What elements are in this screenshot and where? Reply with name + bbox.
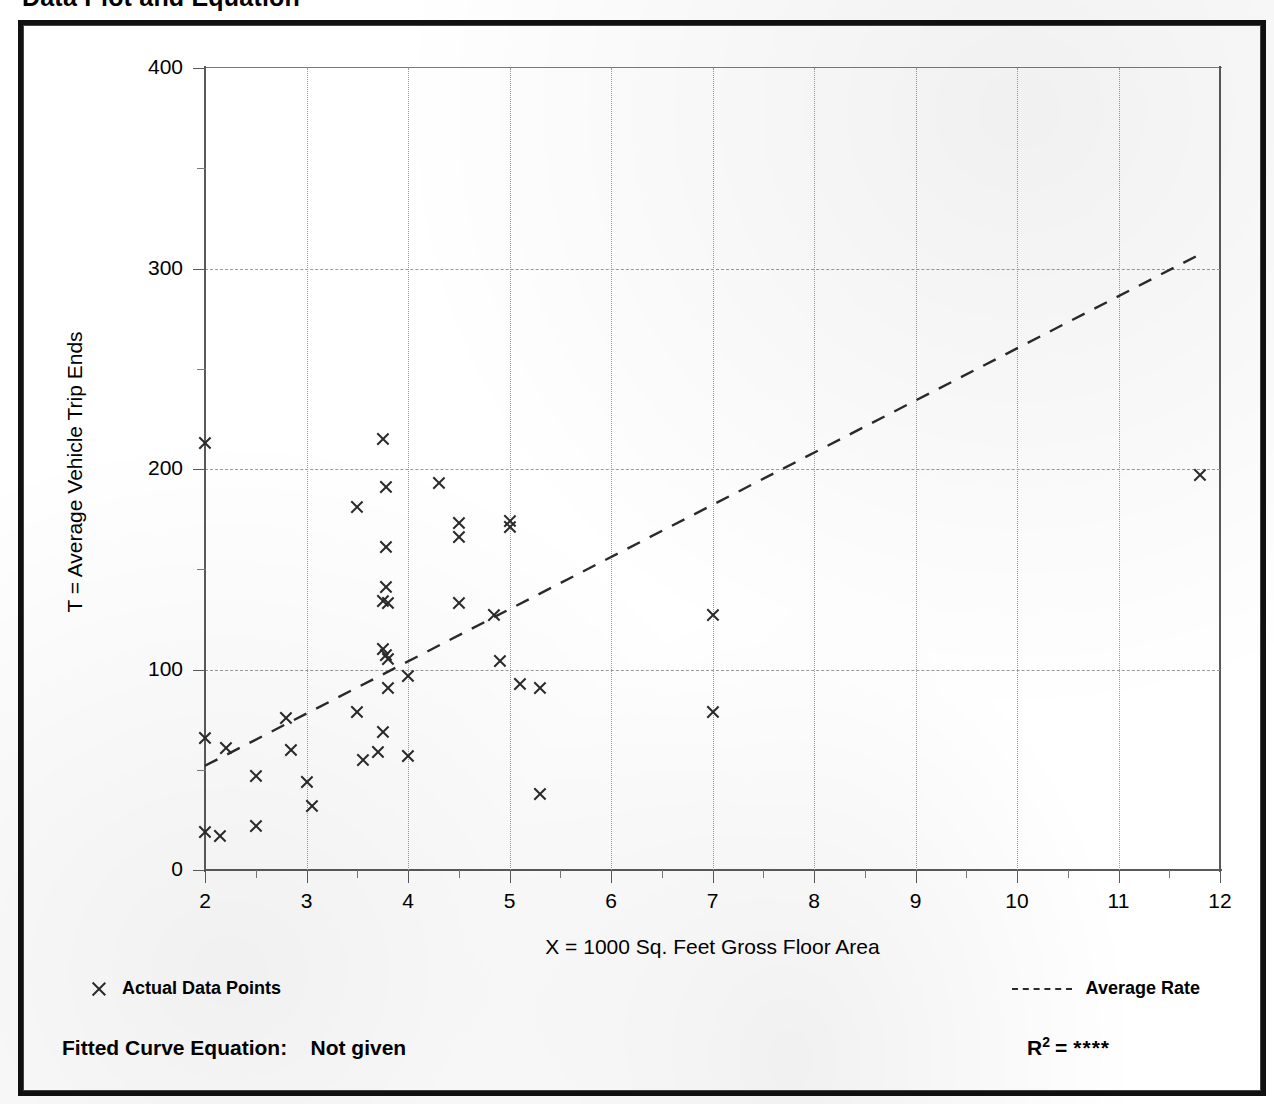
legend-item-average-rate: Average Rate — [1012, 978, 1200, 999]
data-point — [451, 595, 467, 611]
data-point — [512, 676, 528, 692]
fitted-curve-equation: Fitted Curve Equation: Not given — [62, 1036, 406, 1060]
data-point — [375, 724, 391, 740]
data-point — [430, 475, 446, 491]
equation-row: Fitted Curve Equation: Not given R2 = **… — [62, 1036, 1222, 1070]
scatter-chart: 23456789101112 0100200300400 X = 1000 Sq… — [0, 0, 1274, 1104]
data-point — [217, 740, 233, 756]
x-tick-label: 6 — [581, 889, 641, 913]
x-tick-minor — [459, 870, 460, 878]
r-squared-block: R2 = **** — [1027, 1036, 1110, 1060]
fitted-equation-value: Not given — [311, 1036, 407, 1059]
data-point — [705, 607, 721, 623]
data-point — [491, 653, 507, 669]
r-squared-equals: = — [1055, 1036, 1067, 1060]
x-tick — [510, 870, 511, 883]
x-tick — [205, 870, 206, 883]
data-point — [705, 704, 721, 720]
dashed-line-icon — [1012, 988, 1072, 990]
y-tick-label: 100 — [95, 657, 183, 681]
data-point — [1192, 467, 1208, 483]
y-tick-label: 300 — [95, 256, 183, 280]
x-tick-minor — [256, 870, 257, 878]
r-squared-label: R — [1027, 1036, 1042, 1060]
data-point — [370, 744, 386, 760]
x-tick-minor — [560, 870, 561, 878]
y-tick-label: 400 — [95, 55, 183, 79]
x-tick — [1119, 870, 1120, 883]
x-tick-label: 8 — [784, 889, 844, 913]
legend-label-average-rate: Average Rate — [1086, 978, 1200, 999]
data-point — [378, 539, 394, 555]
x-tick — [1017, 870, 1018, 883]
r-squared-exponent: 2 — [1042, 1034, 1050, 1050]
x-tick-minor — [1068, 870, 1069, 878]
x-tick-label: 7 — [683, 889, 743, 913]
data-point — [400, 668, 416, 684]
data-point — [375, 431, 391, 447]
x-tick — [408, 870, 409, 883]
data-point — [380, 680, 396, 696]
data-point — [349, 704, 365, 720]
data-point — [197, 824, 213, 840]
x-tick-label: 4 — [378, 889, 438, 913]
x-tick-minor — [763, 870, 764, 878]
x-tick — [916, 870, 917, 883]
chart-legend: Actual Data Points Average Rate — [90, 978, 1200, 1008]
data-point — [400, 748, 416, 764]
x-tick — [307, 870, 308, 883]
x-tick-label: 12 — [1190, 889, 1250, 913]
x-tick-minor — [966, 870, 967, 878]
legend-item-actual-data-points: Actual Data Points — [90, 978, 281, 999]
x-axis-title: X = 1000 Sq. Feet Gross Floor Area — [205, 935, 1220, 959]
data-point — [278, 710, 294, 726]
y-axis-title: T = Average Vehicle Trip Ends — [63, 172, 87, 772]
data-point — [380, 651, 396, 667]
data-point — [248, 768, 264, 784]
data-point — [197, 730, 213, 746]
x-tick-label: 10 — [987, 889, 1047, 913]
data-point — [378, 479, 394, 495]
x-tick-label: 5 — [480, 889, 540, 913]
legend-label-actual-data-points: Actual Data Points — [122, 978, 281, 999]
x-tick-minor — [357, 870, 358, 878]
r-squared-value: **** — [1073, 1036, 1110, 1060]
x-tick — [611, 870, 612, 883]
y-tick — [193, 870, 206, 871]
data-point — [212, 828, 228, 844]
data-point — [354, 752, 370, 768]
fitted-equation-label: Fitted Curve Equation: — [62, 1036, 287, 1059]
data-point — [299, 774, 315, 790]
x-tick-minor — [1169, 870, 1170, 878]
y-tick-label: 0 — [95, 857, 183, 881]
data-point — [380, 595, 396, 611]
y-tick-label: 200 — [95, 456, 183, 480]
x-tick-minor — [662, 870, 663, 878]
data-point — [197, 435, 213, 451]
average-rate-trend-line — [205, 68, 1220, 870]
x-tick — [1220, 870, 1221, 883]
data-point — [304, 798, 320, 814]
x-tick-label: 11 — [1089, 889, 1149, 913]
data-point — [532, 786, 548, 802]
data-point — [502, 519, 518, 535]
data-point — [532, 680, 548, 696]
x-tick-label: 3 — [277, 889, 337, 913]
x-tick — [713, 870, 714, 883]
data-point — [283, 742, 299, 758]
data-point — [451, 529, 467, 545]
x-tick-label: 2 — [175, 889, 235, 913]
data-point — [486, 607, 502, 623]
data-point — [248, 818, 264, 834]
x-tick — [814, 870, 815, 883]
x-tick-label: 9 — [886, 889, 946, 913]
x-marker-icon — [90, 980, 108, 998]
x-tick-minor — [865, 870, 866, 878]
data-point — [349, 499, 365, 515]
